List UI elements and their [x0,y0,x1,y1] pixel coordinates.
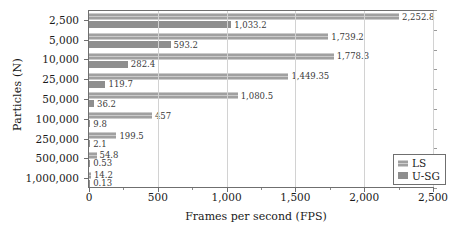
x-tick-mark [89,188,90,192]
x-axis-title: Frames per second (FPS) [0,210,466,223]
bar-value-label: 36.2 [94,99,116,109]
x-tick-label: 0 [86,191,93,203]
bar-group: 2,252.81,033.2 [89,11,433,31]
y-tick-label: 50,000 [0,93,84,105]
y-tick-mark [84,178,88,179]
y-tick-label: 5,000 [0,34,84,46]
y-minor-tick [434,109,437,110]
plot-area: 2,252.81,033.21,739.2593.21,778.3282.41,… [88,10,434,188]
y-tick-label: 10,000 [0,53,84,65]
y-tick-label: 1,000,000 [0,172,84,184]
y-minor-tick [434,129,437,130]
y-tick-label: 25,000 [0,73,84,85]
bar-group: 1,449.35119.7 [89,70,433,90]
gridline [295,11,296,187]
x-minor-tick [123,188,124,190]
bar-value-label: 9.8 [90,119,107,129]
bar-value-label: 1,080.5 [238,91,273,101]
x-tick-mark [158,188,159,192]
y-tick-label: 100,000 [0,113,84,125]
x-minor-tick [330,188,331,190]
y-minor-tick [434,89,437,90]
bar-slot: 1,739.2 [89,33,433,40]
bar-group: 1,080.536.2 [89,90,433,110]
legend-item-ls: LS [398,158,440,169]
y-tick-mark [84,119,88,120]
gridline [227,11,228,187]
legend-swatch-ls [398,160,408,167]
bar-group: 54.80.53 [89,149,433,169]
x-tick-label: 2,500 [418,191,448,203]
bar-group: 1,778.3282.4 [89,51,433,71]
x-tick-mark [295,188,296,192]
y-minor-tick [434,30,437,31]
x-tick-label: 1,500 [280,191,310,203]
bar-value-label: 199.5 [116,131,143,141]
bar-value-label: 2,252.8 [399,12,434,22]
bar-ls [89,33,328,40]
bar-slot: 36.2 [89,100,433,107]
bar-slot: 0.13 [89,180,433,187]
bar-usg [89,61,128,68]
bar-value-label: 0.13 [90,178,112,188]
chart-legend: LS U-SG [393,154,446,185]
bar-group: 1,739.2593.2 [89,31,433,51]
y-tick-label: 250,000 [0,133,84,145]
bar-slot: 14.2 [89,172,433,179]
bar-usg [89,81,105,88]
bar-slot: 282.4 [89,61,433,68]
legend-label-ls: LS [412,158,426,169]
x-minor-tick [192,188,193,190]
y-minor-tick [434,69,437,70]
bar-value-label: 0.53 [90,158,112,168]
y-minor-tick [434,148,437,149]
legend-item-usg: U-SG [398,171,440,182]
y-tick-mark [84,99,88,100]
bar-slot: 1,449.35 [89,73,433,80]
y-tick-label: 500,000 [0,152,84,164]
bar-slot: 457 [89,112,433,119]
bar-slot: 199.5 [89,132,433,139]
bar-slot: 593.2 [89,41,433,48]
bar-slot: 2.1 [89,140,433,147]
x-tick-label: 2,000 [349,191,379,203]
bar-slot: 9.8 [89,120,433,127]
y-minor-tick [434,188,437,189]
y-tick-mark [84,20,88,21]
bar-value-label: 1,739.2 [328,32,363,42]
bar-value-label: 457 [152,111,171,121]
gridline [158,11,159,187]
bar-value-label: 119.7 [105,79,132,89]
bar-value-label: 282.4 [128,59,155,69]
bar-group: 4579.8 [89,110,433,130]
bar-value-label: 2.1 [90,139,107,149]
x-tick-mark [227,188,228,192]
y-tick-label: 2,500 [0,14,84,26]
y-tick-mark [84,79,88,80]
bar-usg [89,21,231,28]
y-tick-mark [84,139,88,140]
x-tick-label: 500 [148,191,168,203]
y-minor-tick [434,50,437,51]
bar-slot: 1,033.2 [89,21,433,28]
bar-value-label: 593.2 [171,40,198,50]
bar-slot: 119.7 [89,81,433,88]
x-tick-label: 1,000 [212,191,242,203]
bar-ls [89,53,334,60]
bar-group: 199.52.1 [89,130,433,150]
x-minor-tick [261,188,262,190]
y-tick-mark [84,40,88,41]
bar-rows: 2,252.81,033.21,739.2593.21,778.3282.41,… [89,11,433,187]
x-minor-tick [399,188,400,190]
y-minor-tick [434,10,437,11]
bar-slot: 0.53 [89,160,433,167]
bar-slot: 1,080.5 [89,92,433,99]
bar-slot: 54.8 [89,152,433,159]
bar-group: 14.20.13 [89,169,433,189]
legend-label-usg: U-SG [412,171,440,182]
y-tick-mark [84,158,88,159]
bar-value-label: 1,033.2 [231,20,266,30]
bar-chart-figure: Particles (N) 2,252.81,033.21,739.2593.2… [0,0,466,239]
y-tick-mark [84,59,88,60]
gridline [364,11,365,187]
